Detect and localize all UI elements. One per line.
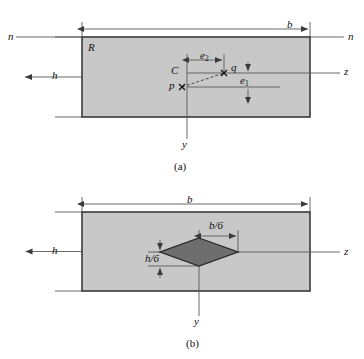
kern-height-label: h/6 (145, 253, 159, 264)
z-axis-label-a: z (344, 66, 348, 77)
kern-point-label-q: q (231, 62, 237, 73)
neutral-axis-label-left: n (8, 31, 14, 42)
panel-a-group (16, 22, 344, 139)
caption-b: (b) (186, 337, 199, 349)
dimension-b-label-a: b (287, 19, 293, 30)
dimension-b-label-b: b (187, 194, 193, 205)
neutral-axis-label-right: n (348, 31, 354, 42)
figure-vector-canvas (0, 0, 364, 359)
dimension-h-label-a: h (52, 70, 58, 81)
centroid-label-C: C (171, 65, 178, 76)
dimension-b-b (82, 197, 310, 212)
y-axis-label-a: y (182, 139, 187, 150)
z-axis-label-b: z (344, 246, 348, 257)
caption-a: (a) (174, 160, 186, 172)
panel-b-group (26, 197, 341, 316)
dimension-e1-label: e1 (240, 75, 249, 87)
figure-kern-rectangular-section: b h n n R e2 e1 C p q z y (a) b h b/6 h/… (0, 0, 364, 359)
e1-subscript: 1 (245, 79, 249, 88)
cross-section-rect-a (82, 37, 310, 117)
kern-width-label: b/6 (209, 220, 223, 231)
dimension-h-label-b: h (52, 245, 58, 256)
section-label-R: R (88, 42, 95, 53)
dimension-e2-label: e2 (200, 50, 209, 62)
load-point-label-p: p (169, 80, 175, 91)
dimension-b-a (82, 22, 310, 37)
y-axis-label-b: y (194, 316, 199, 327)
e2-subscript: 2 (205, 54, 209, 63)
